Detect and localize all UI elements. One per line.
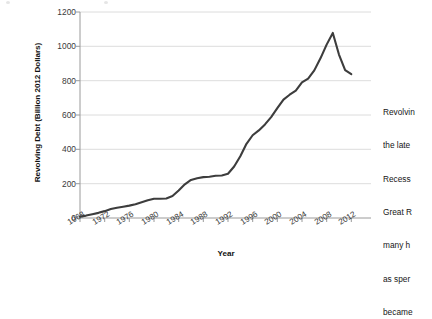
- body-text-line: Recess: [383, 174, 432, 185]
- x-tick-label: 2008: [313, 210, 333, 227]
- body-paragraph: Revolvin the late Recess Great R many h …: [383, 85, 432, 319]
- body-text-line: became: [383, 307, 432, 318]
- body-text-line: many h: [383, 240, 432, 251]
- body-text-line: the late: [383, 140, 432, 151]
- x-tick-label: 1992: [214, 210, 234, 227]
- body-text-line: Revolvin: [383, 107, 432, 118]
- x-tick-label: 1988: [189, 210, 209, 227]
- x-tick-label: 1984: [165, 210, 185, 227]
- body-text-line: as sper: [383, 274, 432, 285]
- x-tick-label: 1968: [66, 210, 86, 227]
- x-tick-label: 2004: [288, 210, 308, 227]
- body-text-line: Great R: [383, 207, 432, 218]
- x-axis-title: Year: [80, 249, 372, 258]
- y-axis-title: Revolving Debt (Billion 2012 Dollars): [33, 13, 42, 213]
- line-chart: 1200 1000 800 600 400 200 0 1968 1972 19…: [0, 0, 378, 267]
- x-tick-label: 1972: [91, 210, 111, 227]
- x-tick-label: 1996: [239, 210, 259, 227]
- x-axis-tick-labels: 1968 1972 1976 1980 1984 1988 1992 1996 …: [0, 0, 378, 267]
- x-tick-label: 2000: [263, 210, 283, 227]
- x-tick-label: 1976: [115, 210, 135, 227]
- x-tick-label: 1980: [140, 210, 160, 227]
- x-tick-label: 2012: [337, 210, 357, 227]
